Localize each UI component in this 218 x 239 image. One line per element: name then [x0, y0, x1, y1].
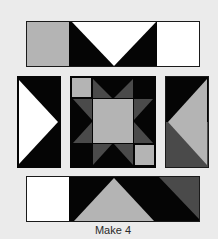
bottom-row-unit [26, 176, 200, 222]
center-star-unit [70, 76, 156, 168]
caption-make-count: Make 4 [0, 224, 218, 236]
right-column-unit [165, 76, 209, 168]
left-column-unit [17, 76, 61, 168]
top-row-unit [26, 21, 200, 67]
